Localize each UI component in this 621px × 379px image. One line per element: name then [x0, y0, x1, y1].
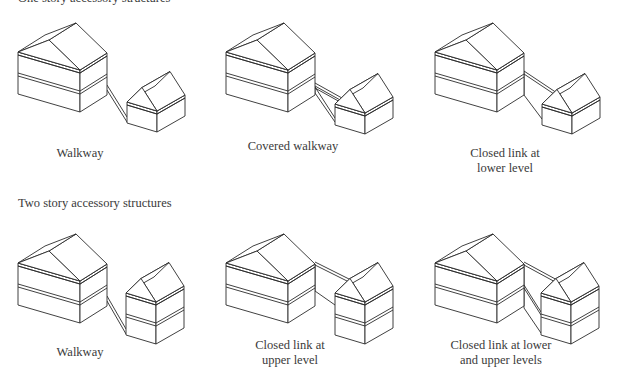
panel-walkway [18, 234, 184, 344]
panel-covered-walkway [226, 23, 393, 134]
panel-caption: Walkway [57, 146, 104, 161]
accessory-structure [541, 263, 599, 345]
panel-caption: Closed link atupper level [255, 338, 324, 368]
caption-line: upper level [255, 353, 324, 368]
main-house [226, 23, 315, 112]
caption-line: and upper levels [450, 353, 551, 368]
panel-closed-upper [226, 234, 393, 344]
caption-line: Walkway [57, 146, 104, 161]
accessory-structure [335, 263, 393, 345]
panel-walkway [18, 23, 185, 132]
accessory-structure [335, 74, 393, 135]
panel-caption: Covered walkway [248, 139, 339, 154]
caption-line: Walkway [57, 345, 104, 360]
link-walkway [107, 85, 127, 122]
accessory-structure [126, 263, 184, 345]
panel-caption: Walkway [57, 345, 104, 360]
panel-caption: Closed link atlower level [470, 146, 539, 176]
link-walkway [107, 296, 126, 334]
accessory-structure [542, 74, 600, 135]
main-house [18, 234, 107, 323]
caption-line: Closed link at [470, 146, 539, 161]
section-heading: One story accessory structures [18, 0, 170, 6]
caption-line: Covered walkway [248, 139, 339, 154]
main-house [18, 23, 107, 112]
accessory-structure [127, 72, 185, 133]
panel-caption: Closed link at lowerand upper levels [450, 338, 551, 368]
panel-closed-lower [435, 23, 600, 134]
accessory-structures-diagram [0, 0, 621, 379]
section-heading: Two story accessory structures [18, 196, 172, 211]
caption-line: lower level [470, 161, 539, 176]
caption-line: Closed link at [255, 338, 324, 353]
panel-closed-both [435, 234, 599, 344]
caption-line: Closed link at lower [450, 338, 551, 353]
main-house [435, 23, 524, 112]
main-house [435, 234, 524, 323]
main-house [226, 234, 315, 323]
